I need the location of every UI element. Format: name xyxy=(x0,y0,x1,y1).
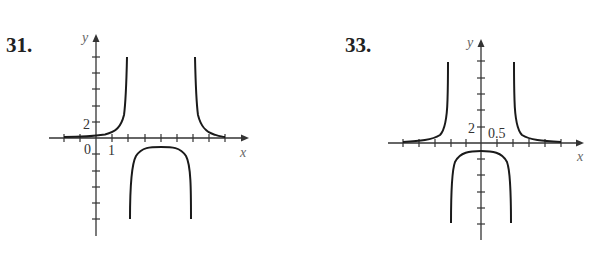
y-axis-arrow-icon xyxy=(93,34,100,42)
curve-33-left xyxy=(403,62,448,142)
graph-31: y x 2 0 1 xyxy=(49,30,249,236)
x-axis-label-31: x xyxy=(239,145,247,160)
y-tick-label-33: 2 xyxy=(468,121,475,136)
x-axis-label-33: x xyxy=(576,149,584,164)
x-axis-arrow-icon xyxy=(241,135,249,142)
curve-31-middle xyxy=(130,147,191,219)
curve-31-right xyxy=(195,57,225,137)
x-tick-label-33: 0.5 xyxy=(488,126,506,141)
y-tick-label-31: 2 xyxy=(83,117,90,132)
origin-label-31: 0 xyxy=(84,142,91,157)
y-axis-label-31: y xyxy=(80,30,89,45)
x-tick-label-31: 1 xyxy=(108,143,115,158)
graph-33: y x 2 0.5 xyxy=(388,35,584,240)
curve-33-right xyxy=(514,62,561,142)
y-axis-arrow-icon xyxy=(478,39,485,47)
x-axis-arrow-icon xyxy=(576,140,584,147)
graphs-canvas: y x 2 0 1 xyxy=(0,0,596,270)
y-axis-label-33: y xyxy=(465,35,474,50)
